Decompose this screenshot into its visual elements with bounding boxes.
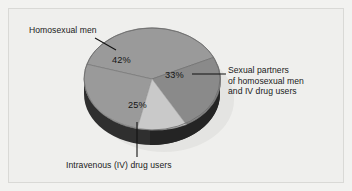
label-iv-drug-users: Intravenous (IV) drug users bbox=[66, 160, 171, 171]
label-homosexual-men: Homosexual men bbox=[29, 25, 97, 36]
label-sexual-partners-line-1: Sexual partners bbox=[228, 65, 304, 76]
label-sexual-partners: Sexual partners of homosexual men and IV… bbox=[228, 65, 304, 97]
label-sexual-partners-line-2: of homosexual men bbox=[228, 76, 304, 87]
pie-chart-figure: 42% 33% 25% Homosexual men Sexual partne… bbox=[0, 0, 352, 191]
label-sexual-partners-line-3: and IV drug users bbox=[228, 86, 304, 97]
slice-value-homosexual-men: 42% bbox=[112, 55, 131, 65]
slice-value-iv-drug-users: 25% bbox=[128, 100, 147, 110]
slice-value-sexual-partners: 33% bbox=[165, 70, 184, 80]
